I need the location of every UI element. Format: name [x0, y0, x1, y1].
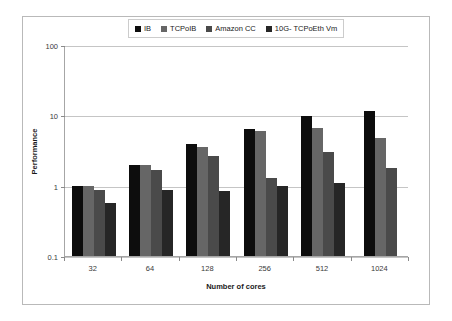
bar	[386, 168, 397, 256]
chart-legend: IBTCPoIBAmazon CC10G- TCPoEth Vm	[128, 19, 344, 38]
bar-group	[180, 46, 237, 256]
x-tick-mark	[64, 257, 65, 261]
legend-label: 10G- TCPoEth Vm	[275, 25, 337, 33]
legend-entry: TCPoIB	[161, 25, 196, 33]
bar-group	[294, 46, 351, 256]
legend-swatch-icon	[161, 26, 167, 32]
x-tick-label: 64	[146, 264, 154, 273]
bar	[255, 131, 266, 256]
figure: IBTCPoIBAmazon CC10G- TCPoEth Vm Perform…	[0, 0, 452, 321]
y-tick-label: 10	[50, 112, 58, 121]
legend-entry: IB	[135, 25, 151, 33]
bar	[105, 203, 116, 256]
bar	[277, 186, 288, 256]
x-tick-mark	[293, 257, 294, 261]
x-tick-mark	[408, 257, 409, 261]
bar	[312, 128, 323, 256]
bar	[83, 186, 94, 256]
x-axis-title: Number of cores	[64, 282, 408, 291]
x-axis-ticks	[64, 257, 408, 261]
bar	[219, 191, 230, 256]
legend-entry: 10G- TCPoEth Vm	[266, 25, 337, 33]
x-tick-label: 256	[258, 264, 271, 273]
x-tick-mark	[121, 257, 122, 261]
bar-group	[237, 46, 294, 256]
legend-swatch-icon	[266, 26, 272, 32]
bar	[129, 165, 140, 257]
legend-label: TCPoIB	[170, 25, 196, 33]
bar-group	[122, 46, 179, 256]
plot-area: 0.1110100	[64, 46, 408, 257]
y-tick-label: 1	[54, 182, 58, 191]
bar	[323, 152, 334, 256]
bar	[266, 178, 277, 256]
y-tick-label: 0.1	[48, 253, 58, 262]
legend-entry: Amazon CC	[206, 25, 255, 33]
bars-layer	[65, 46, 408, 256]
legend-swatch-icon	[206, 26, 212, 32]
x-tick-label: 32	[88, 264, 96, 273]
bar	[375, 138, 386, 256]
bar	[162, 190, 173, 256]
bar	[94, 190, 105, 256]
x-tick-mark	[351, 257, 352, 261]
bar	[197, 147, 208, 256]
bar-group	[352, 46, 409, 256]
x-axis-tick-labels: 32641282565121024	[64, 264, 408, 276]
x-tick-mark	[179, 257, 180, 261]
x-tick-label: 1024	[371, 264, 388, 273]
y-axis-title: Performance	[28, 46, 42, 257]
y-axis-title-text: Performance	[31, 129, 40, 175]
bar	[151, 170, 162, 256]
x-tick-mark	[236, 257, 237, 261]
bar	[72, 186, 83, 256]
bar	[334, 183, 345, 256]
legend-label: Amazon CC	[215, 25, 255, 33]
bar	[208, 156, 219, 256]
bar	[140, 165, 151, 256]
bar	[364, 111, 375, 256]
bar-group	[65, 46, 122, 256]
bar	[244, 129, 255, 256]
y-tick-label: 100	[45, 42, 58, 51]
legend-swatch-icon	[135, 26, 141, 32]
bar	[301, 116, 312, 256]
x-tick-label: 512	[316, 264, 329, 273]
x-tick-label: 128	[201, 264, 214, 273]
legend-label: IB	[144, 25, 151, 33]
bar	[186, 144, 197, 256]
